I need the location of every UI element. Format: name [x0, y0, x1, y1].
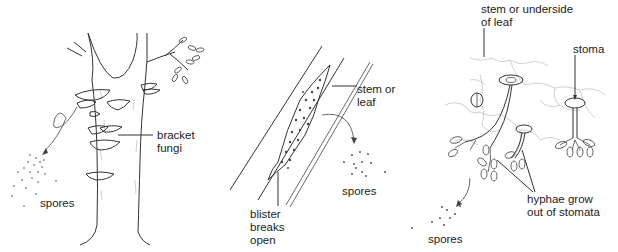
stoma-label: stoma	[573, 43, 604, 56]
fungi-spore-diagram: bracket fungi spores stem or leaf spores…	[0, 0, 618, 252]
blister-illustration	[230, 46, 386, 207]
bracket-fungi-label: bracket fungi	[157, 129, 195, 155]
blister-spores-label: spores	[342, 185, 377, 198]
diagram-illustration	[0, 0, 618, 252]
stem-or-leaf-label: stem or leaf	[357, 83, 395, 109]
stomata-spores-label: spores	[428, 233, 463, 246]
blister-breaks-open-label: blister breaks open	[250, 208, 285, 247]
hyphae-label: hyphae grow out of stomata	[527, 193, 600, 219]
stem-underside-leaf-label: stem or underside of leaf	[481, 3, 573, 29]
tree-spores-label: spores	[40, 197, 75, 210]
